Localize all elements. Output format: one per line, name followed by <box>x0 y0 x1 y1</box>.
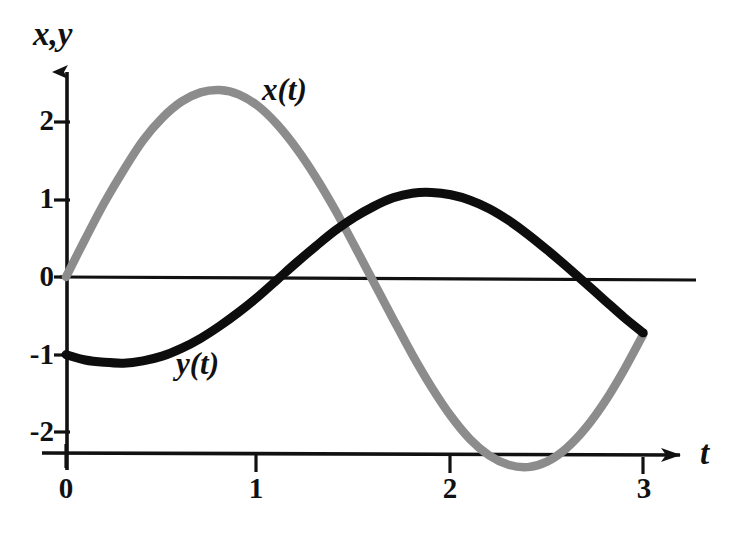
y-tick-label-minus-2: -2 <box>10 417 54 446</box>
y-tick-label-minus-1: -1 <box>10 340 54 369</box>
y-tick-label-1: 1 <box>10 184 54 213</box>
x-tick-label-0: 0 <box>46 474 86 503</box>
x-axis-title: t <box>700 437 709 470</box>
x-tick-label-3: 3 <box>624 474 664 503</box>
chart-figure: x,y t 2 1 0 -1 -2 0 1 2 3 x(t) y(t) <box>0 0 731 536</box>
plot-canvas <box>0 0 731 536</box>
series-label-xt: x(t) <box>262 74 307 105</box>
series-label-yt: y(t) <box>176 348 219 379</box>
y-tick-label-0: 0 <box>10 262 54 291</box>
y-tick-label-2: 2 <box>10 106 54 135</box>
x-axis-line <box>42 453 680 455</box>
x-tick-label-1: 1 <box>236 474 276 503</box>
y-axis-title: x,y <box>33 18 72 51</box>
x-tick-label-2: 2 <box>430 474 470 503</box>
zero-reference-line <box>60 277 696 280</box>
